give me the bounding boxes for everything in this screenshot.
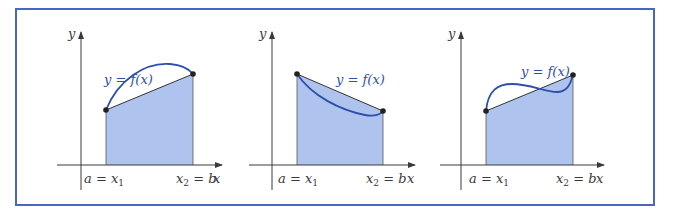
endpoint-left xyxy=(483,108,489,114)
y-axis-label: y xyxy=(447,26,456,41)
y-axis-label: y xyxy=(67,26,76,41)
right-bound-label: x2 = b xyxy=(176,171,217,188)
y-axis-label: y xyxy=(258,26,267,41)
curve-label: y = f(x) xyxy=(520,64,570,79)
left-bound-label: a = x1 xyxy=(84,171,124,188)
panel-concave: yxy = f(x)a = x1x2 = b xyxy=(57,26,222,190)
right-bound-label: x2 = b xyxy=(366,171,407,188)
endpoint-right xyxy=(190,71,196,77)
x-axis-label: x xyxy=(596,171,604,186)
curve-label: y = f(x) xyxy=(335,72,385,87)
endpoint-left xyxy=(294,71,300,77)
curve-label: y = f(x) xyxy=(103,72,153,87)
panel-inflection: yxy = f(x)a = x1x2 = b xyxy=(440,26,604,190)
right-bound-label: x2 = b xyxy=(556,171,597,188)
endpoint-left xyxy=(103,107,109,113)
left-bound-label: a = x1 xyxy=(278,171,318,188)
panel-convex: yxy = f(x)a = x1x2 = b xyxy=(249,26,415,190)
endpoint-right xyxy=(570,72,576,78)
endpoint-right xyxy=(380,108,386,114)
x-axis-label: x xyxy=(407,171,415,186)
figure-canvas: yxy = f(x)a = x1x2 = byxy = f(x)a = x1x2… xyxy=(0,0,673,218)
left-bound-label: a = x1 xyxy=(469,171,509,188)
trapezoid-area xyxy=(486,75,573,165)
